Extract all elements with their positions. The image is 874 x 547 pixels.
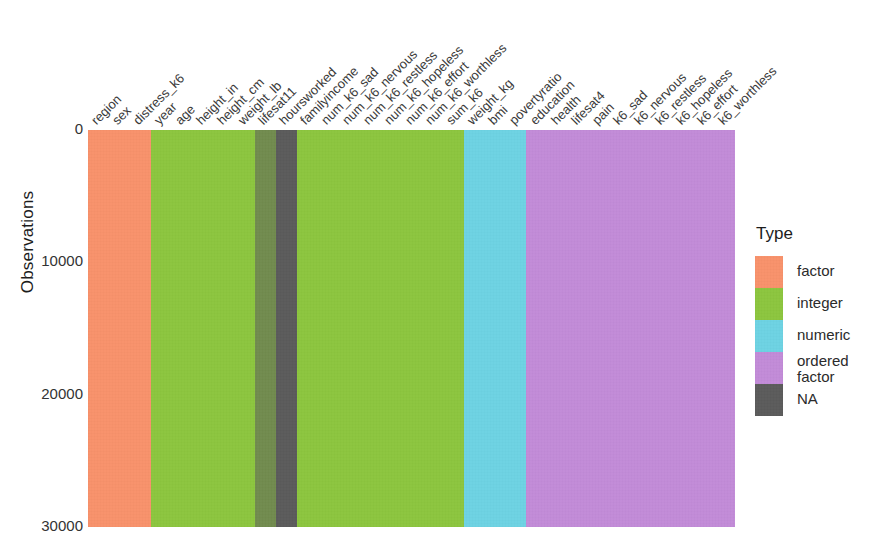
column-segment-value (88, 130, 109, 527)
column-segment-value (693, 130, 714, 527)
data-column (443, 130, 464, 527)
y-axis-tick-label: 20000 (9, 386, 83, 401)
column-segment-value (318, 130, 339, 527)
y-axis-ticks: 0100002000030000 (0, 0, 83, 547)
legend-swatch-noise (755, 352, 783, 384)
column-segment-na (276, 130, 297, 527)
column-segment-value (359, 130, 380, 527)
data-column (485, 130, 506, 527)
legend-label: integer (797, 288, 843, 311)
column-segment-value (338, 130, 359, 527)
legend-label: numeric (797, 320, 850, 343)
data-column (338, 130, 359, 527)
data-column (401, 130, 422, 527)
y-axis-tick-label: 0 (9, 121, 83, 136)
data-column (297, 130, 318, 527)
legend-item: NA (755, 384, 850, 416)
data-column (464, 130, 485, 527)
column-segment-value (547, 130, 568, 527)
legend-swatch-noise (755, 256, 783, 288)
legend-swatch-noise (755, 320, 783, 352)
legend: Type factorintegernumericordered factorN… (755, 224, 850, 416)
column-segment-na-mixed (255, 130, 276, 527)
column-segment-value (234, 130, 255, 527)
y-axis-tick-label: 30000 (9, 518, 83, 533)
data-column (359, 130, 380, 527)
legend-swatch-noise (755, 288, 783, 320)
legend-swatch (755, 288, 783, 320)
legend-item: ordered factor (755, 352, 850, 384)
column-segment-value (130, 130, 151, 527)
column-segment-value (401, 130, 422, 527)
data-column (380, 130, 401, 527)
column-segment-value (589, 130, 610, 527)
x-axis-labels: regionsexdistress_k6yearageheight_inheig… (0, 0, 874, 130)
legend-swatch (755, 256, 783, 288)
column-segment-value (464, 130, 485, 527)
legend-swatch-noise (755, 384, 783, 416)
legend-item: integer (755, 288, 850, 320)
data-column (610, 130, 631, 527)
legend-swatch (755, 320, 783, 352)
legend-item: numeric (755, 320, 850, 352)
column-segment-value (213, 130, 234, 527)
legend-items: factorintegernumericordered factorNA (755, 256, 850, 416)
column-segment-value (505, 130, 526, 527)
data-column (255, 130, 276, 527)
column-segment-value (109, 130, 130, 527)
column-segment-value (610, 130, 631, 527)
column-segment-value (652, 130, 673, 527)
data-column (714, 130, 735, 527)
column-segment-value (672, 130, 693, 527)
column-segment-value (380, 130, 401, 527)
column-segment-value (192, 130, 213, 527)
vis-dat-figure: regionsexdistress_k6yearageheight_inheig… (0, 0, 874, 547)
data-column (589, 130, 610, 527)
data-column (526, 130, 547, 527)
data-column (693, 130, 714, 527)
column-segment-value (485, 130, 506, 527)
data-column (568, 130, 589, 527)
legend-label: NA (797, 384, 818, 407)
legend-label: ordered factor (797, 352, 849, 385)
column-segment-value (631, 130, 652, 527)
y-axis-title: Observations (18, 142, 38, 342)
column-segment-value (568, 130, 589, 527)
data-column (130, 130, 151, 527)
column-segment-value (151, 130, 172, 527)
data-column (672, 130, 693, 527)
legend-label: factor (797, 256, 835, 279)
data-column (109, 130, 130, 527)
data-column (171, 130, 192, 527)
data-column (234, 130, 255, 527)
data-column (631, 130, 652, 527)
data-column (652, 130, 673, 527)
data-column (547, 130, 568, 527)
plot-panel (88, 130, 735, 527)
data-column (192, 130, 213, 527)
column-segment-value (171, 130, 192, 527)
data-column (505, 130, 526, 527)
data-column (213, 130, 234, 527)
data-column (151, 130, 172, 527)
column-segment-value (297, 130, 318, 527)
legend-title: Type (756, 224, 850, 244)
data-column (88, 130, 109, 527)
legend-swatch (755, 384, 783, 416)
column-segment-value (526, 130, 547, 527)
column-segment-value (714, 130, 735, 527)
data-column (276, 130, 297, 527)
legend-swatch (755, 352, 783, 384)
column-segment-value (443, 130, 464, 527)
data-column (318, 130, 339, 527)
data-column (422, 130, 443, 527)
column-segment-value (422, 130, 443, 527)
legend-item: factor (755, 256, 850, 288)
